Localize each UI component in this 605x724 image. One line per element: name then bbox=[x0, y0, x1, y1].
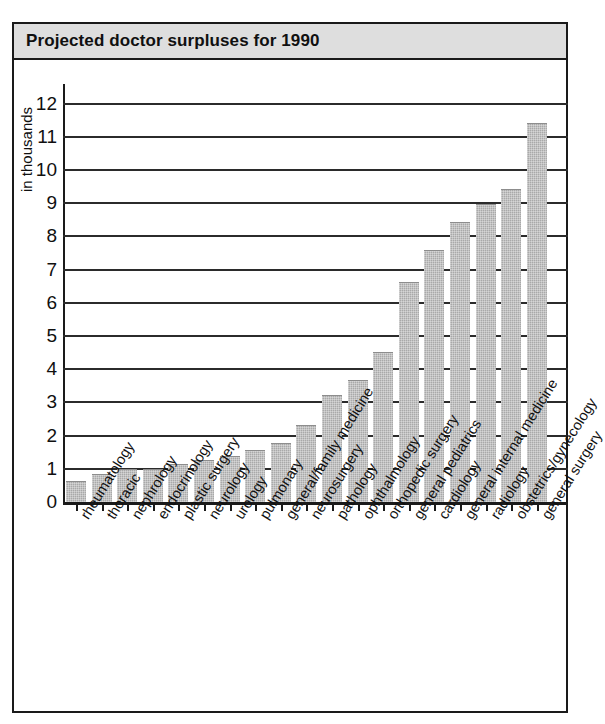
y-axis-tick-label: 9 bbox=[46, 193, 57, 212]
chart-figure: Projected doctor surpluses for 1990 0123… bbox=[12, 22, 568, 713]
y-axis-title: in thousands bbox=[18, 0, 35, 192]
y-axis-tick-label: 7 bbox=[46, 260, 57, 279]
x-axis-tick bbox=[409, 505, 411, 511]
page-title: Projected doctor surpluses for 1990 bbox=[26, 31, 320, 51]
y-axis-tick-label: 3 bbox=[46, 392, 57, 411]
bar bbox=[476, 204, 496, 502]
y-axis-spine bbox=[63, 84, 65, 504]
x-axis-tick bbox=[102, 505, 104, 511]
plot-area: 0123456789101112 rheumatologythoracicnep… bbox=[63, 62, 568, 713]
x-axis-tick bbox=[281, 505, 283, 511]
y-axis-tick-label: 6 bbox=[46, 293, 57, 312]
y-axis-tick-label: 12 bbox=[36, 94, 57, 113]
x-axis-tick bbox=[537, 505, 539, 511]
y-axis-tick-label: 1 bbox=[46, 459, 57, 478]
y-axis-tick-label: 0 bbox=[46, 492, 57, 511]
y-axis-tick-label: 11 bbox=[37, 127, 57, 146]
y-axis-tick-label: 10 bbox=[36, 160, 57, 179]
x-axis-tick bbox=[230, 505, 232, 511]
x-axis-tick bbox=[486, 505, 488, 511]
y-axis-tick-label: 8 bbox=[46, 226, 57, 245]
gridline bbox=[63, 169, 568, 171]
chart-title-bar: Projected doctor surpluses for 1990 bbox=[14, 24, 566, 60]
x-axis-tick bbox=[153, 505, 155, 511]
y-axis-tick-label: 4 bbox=[46, 359, 57, 378]
x-axis-tick bbox=[358, 505, 360, 511]
bar bbox=[66, 481, 86, 502]
gridline bbox=[63, 136, 568, 138]
gridline bbox=[63, 103, 568, 105]
y-axis-tick-label: 5 bbox=[46, 326, 57, 345]
y-axis-tick-label: 2 bbox=[46, 426, 57, 445]
bar bbox=[527, 123, 547, 502]
